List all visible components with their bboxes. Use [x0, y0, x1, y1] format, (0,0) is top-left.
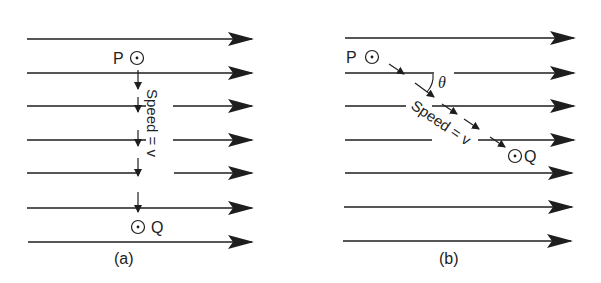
point-p-dot-icon — [366, 51, 379, 64]
panel-a: P Speed = v Q (a) — [27, 39, 252, 267]
point-q-label: Q — [524, 148, 536, 165]
point-q-label: Q — [151, 219, 163, 236]
point-p-label: P — [346, 49, 357, 66]
point-q-dot-icon — [509, 150, 522, 163]
panel-b: P θ Speed = v Q (b) — [343, 38, 574, 267]
point-q-dot-icon — [132, 221, 145, 234]
speed-label-a: Speed = v — [144, 89, 161, 157]
field-diagram: P Speed = v Q (a) — [0, 0, 601, 283]
point-p-dot-icon — [131, 52, 144, 65]
caption-a: (a) — [114, 250, 134, 267]
angle-arc — [427, 74, 433, 92]
path-segment-arrow — [464, 119, 479, 129]
speed-label-b: Speed = v — [408, 96, 474, 148]
point-p-label: P — [113, 50, 124, 67]
caption-b: (b) — [439, 250, 459, 267]
path-segment-arrow — [490, 137, 505, 147]
field-lines-a — [27, 39, 252, 242]
theta-label: θ — [438, 74, 446, 91]
